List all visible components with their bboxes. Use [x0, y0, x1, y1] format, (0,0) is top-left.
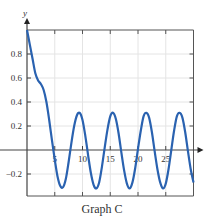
y-axis-arrow [24, 18, 30, 24]
y-tick-label: −0.2 [6, 169, 22, 179]
x-tick-label: 20 [134, 154, 144, 164]
chart-title: Graph C [0, 202, 204, 217]
y-tick-label: 0.4 [11, 97, 23, 107]
x-tick-label: 10 [78, 154, 88, 164]
y-tick-label: 0.6 [11, 73, 23, 83]
y-axis-label: y [22, 8, 27, 18]
y-tick-label: 0.2 [11, 121, 22, 131]
x-tick-label: 15 [106, 154, 116, 164]
x-axis-arrow [198, 147, 204, 153]
y-tick-label: 0.8 [11, 49, 23, 59]
chart: 5101520250.80.60.40.2−0.2 y [0, 0, 204, 219]
